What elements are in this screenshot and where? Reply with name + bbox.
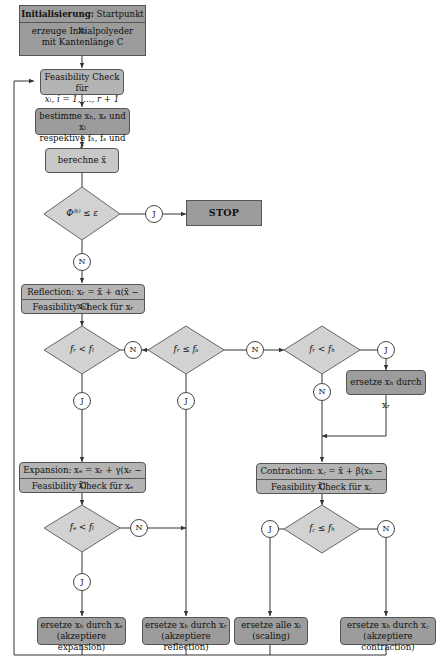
connector-yes-fe-fl: J <box>73 573 91 591</box>
node-expansion: Expansion: xₑ = xᵣ + γ(xᵣ − x̄) Feasibil… <box>19 462 146 493</box>
node-accept-reflection: ersetze xₕ durch xᵣ (akzeptiere reflecti… <box>142 617 230 645</box>
accept-contraction-line-1: ersetze xₕ durch x꜀ <box>341 620 435 631</box>
scaling-line-1: ersetze alle xᵢ <box>235 620 307 631</box>
condition-fr-le-fs: fᵣ ≤ fₛ <box>162 344 210 355</box>
feas-all-line-2: xᵢ, i = 1, ..., r + 1 <box>41 94 123 105</box>
connector-yes-fc-fh: J <box>261 520 279 538</box>
connector-no-fr-fs: N <box>246 341 264 359</box>
node-determine-points: bestimme xₕ, xₛ und xₗ respektive fₕ, fₛ… <box>35 108 130 135</box>
node-stop: STOP <box>186 200 262 226</box>
accept-expansion-line-1: ersetze xₕ durch xₑ <box>38 620 125 631</box>
condition-fe-lt-fl: fₑ < fₗ <box>58 522 106 533</box>
accept-reflection-line-1: ersetze xₕ durch xᵣ <box>143 620 229 631</box>
node-contraction: Contraction: x꜀ = x̄ + β(xₕ − x̄) Feasib… <box>256 463 387 494</box>
scaling-line-2: (scaling) <box>235 631 307 642</box>
feas-all-line-1: Feasibility Check für <box>41 72 123 94</box>
node-initialization: Initialisierung: Startpunkt x₀ erzeuge I… <box>19 5 146 56</box>
condition-fr-lt-fl: fᵣ < fₗ <box>58 344 106 355</box>
connector-no-fe-fl: N <box>130 519 148 537</box>
connector-no-convergence: N <box>73 253 91 271</box>
accept-expansion-line-2: (akzeptiere expansion) <box>38 631 125 653</box>
contraction-formula: Contraction: x꜀ = x̄ + β(xₕ − x̄) <box>257 464 386 480</box>
node-accept-expansion: ersetze xₕ durch xₑ (akzeptiere expansio… <box>37 617 126 645</box>
flowchart: Initialisierung: Startpunkt x₀ erzeuge I… <box>0 0 448 665</box>
connector-no-fr-fh: N <box>313 383 331 401</box>
accept-contraction-line-2: (akzeptiere contraction) <box>341 631 435 653</box>
connector-yes-fr-fl: J <box>73 392 91 410</box>
condition-fc-le-fh: f꜀ ≤ fₕ <box>298 523 346 534</box>
init-title: Initialisierung: <box>21 9 94 19</box>
centroid-label: berechne x̄ <box>58 155 106 165</box>
node-scaling: ersetze alle xᵢ (scaling) <box>234 617 308 645</box>
expansion-feasibility: Feasibility Check für xₑ <box>20 479 145 493</box>
stop-label: STOP <box>209 207 240 218</box>
connector-no-fr-fl: N <box>124 341 142 359</box>
reflection-formula: Reflection: xᵣ = x̄ + α(x̄ − xₕ) <box>22 285 144 300</box>
node-replace-h-with-r: ersetze xₕ durch xᵣ <box>346 370 426 395</box>
convergence-condition: Φ⁽ᵏ⁾ ≤ ε <box>54 208 110 219</box>
node-feasibility-all: Feasibility Check für xᵢ, i = 1, ..., r … <box>40 69 124 95</box>
accept-reflection-line-2: (akzeptiere reflection) <box>143 631 229 653</box>
node-compute-centroid: berechne x̄ <box>45 148 119 173</box>
connector-yes-fr-fs: J <box>177 392 195 410</box>
determine-line-1: bestimme xₕ, xₛ und xₗ <box>36 111 129 133</box>
connector-yes-stop: J <box>145 205 163 223</box>
node-accept-contraction: ersetze xₕ durch x꜀ (akzeptiere contract… <box>340 617 436 645</box>
reflection-feasibility: Feasibility Check für xᵣ <box>22 300 144 314</box>
node-reflection: Reflection: xᵣ = x̄ + α(x̄ − xₕ) Feasibi… <box>21 284 145 314</box>
condition-fr-lt-fh: fᵣ < fₕ <box>298 344 346 355</box>
connector-yes-fr-fh: J <box>377 341 395 359</box>
init-line-2: erzeuge Initialpolyeder <box>20 26 145 37</box>
expansion-formula: Expansion: xₑ = xᵣ + γ(xᵣ − x̄) <box>20 463 145 479</box>
connector-no-fc-fh: N <box>377 520 395 538</box>
init-line-3: mit Kantenlänge C <box>20 37 145 48</box>
contraction-feasibility: Feasibility Check für x꜀ <box>257 480 386 494</box>
